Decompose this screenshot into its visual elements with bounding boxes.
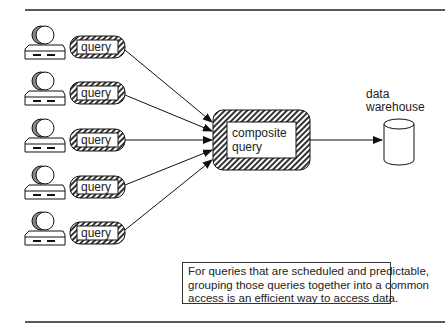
computer-icon [25, 26, 65, 59]
computer-icon [25, 72, 65, 105]
composite-label-line1: composite [232, 127, 287, 140]
computer-icon [25, 212, 65, 245]
diagram: query query query query query composite … [0, 0, 448, 331]
query-label: query [81, 134, 111, 147]
caption-box: For queries that are scheduled and predi… [182, 262, 391, 304]
computer-icon [25, 119, 65, 152]
caption-line: For queries that are scheduled and predi… [188, 265, 385, 279]
warehouse-label-line2: warehouse [366, 101, 425, 114]
query-label: query [81, 87, 111, 100]
query-label: query [81, 181, 111, 194]
query-arrows [125, 50, 212, 230]
caption-line: grouping those queries together into a c… [188, 279, 385, 293]
computer-icon [25, 166, 65, 199]
caption-line: access is an efficient way to access dat… [188, 292, 385, 306]
composite-label-line2: query [232, 141, 262, 154]
query-label: query [81, 227, 111, 240]
query-label: query [81, 41, 111, 54]
database-icon [384, 119, 414, 165]
